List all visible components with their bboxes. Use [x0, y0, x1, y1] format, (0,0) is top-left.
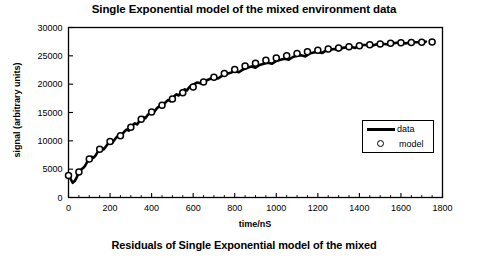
chart-legend: data model	[362, 120, 434, 153]
model-marker	[201, 79, 207, 85]
x-tick-label: 800	[215, 203, 255, 213]
axes-frame	[69, 28, 443, 198]
model-marker	[211, 74, 217, 80]
model-marker	[169, 96, 175, 102]
model-marker	[304, 49, 310, 55]
model-marker	[221, 70, 227, 76]
model-marker	[86, 156, 92, 162]
x-tick-label: 1200	[298, 203, 338, 213]
data-series-group	[66, 39, 436, 183]
axis-ticks	[69, 28, 443, 198]
model-marker	[107, 138, 113, 144]
model-marker	[377, 41, 383, 47]
model-marker	[97, 146, 103, 152]
x-tick-label: 0	[49, 203, 89, 213]
x-tick-label: 1400	[339, 203, 379, 213]
x-tick-label: 600	[173, 203, 213, 213]
model-marker	[128, 124, 134, 130]
x-tick-label: 1600	[381, 203, 421, 213]
y-tick-label: 20000	[17, 79, 63, 89]
model-marker	[253, 60, 259, 66]
model-marker	[273, 55, 279, 61]
model-marker	[263, 57, 269, 63]
model-marker	[315, 47, 321, 53]
model-marker	[284, 53, 290, 59]
model-marker	[367, 42, 373, 48]
legend-label-model: model	[399, 138, 424, 150]
model-marker	[190, 84, 196, 90]
legend-entry-data: data	[363, 121, 435, 137]
model-marker	[419, 39, 425, 45]
model-marker	[232, 66, 238, 72]
data-line	[69, 42, 426, 183]
model-marker	[294, 51, 300, 57]
model-marker	[180, 90, 186, 96]
model-marker	[117, 133, 123, 139]
open-circle-icon	[377, 140, 384, 147]
model-marker	[356, 43, 362, 49]
x-tick-label: 1800	[423, 203, 463, 213]
legend-entry-model: model	[363, 136, 435, 152]
legend-label-data: data	[397, 123, 415, 135]
model-marker	[429, 39, 435, 45]
model-marker	[398, 40, 404, 46]
y-tick-label: 25000	[17, 51, 63, 61]
plot-frame	[69, 28, 443, 198]
x-tick-label: 200	[90, 203, 130, 213]
x-tick-label: 1000	[256, 203, 296, 213]
model-marker	[336, 45, 342, 51]
x-tick-label: 400	[132, 203, 172, 213]
model-marker	[325, 46, 331, 52]
y-tick-label: 15000	[17, 108, 63, 118]
model-marker	[159, 102, 165, 108]
bottom-caption: Residuals of Single Exponential model of…	[0, 238, 488, 252]
model-marker	[242, 63, 248, 69]
model-marker	[66, 172, 72, 178]
model-marker	[149, 109, 155, 115]
model-marker	[138, 116, 144, 122]
model-marker	[388, 40, 394, 46]
y-tick-label: 0	[17, 193, 63, 203]
y-tick-label: 5000	[17, 164, 63, 174]
model-marker	[346, 44, 352, 50]
chart-figure: Single Exponential model of the mixed en…	[0, 0, 488, 258]
line-swatch-icon	[367, 128, 395, 131]
model-marker	[76, 169, 82, 175]
y-tick-label: 10000	[17, 136, 63, 146]
model-marker	[408, 40, 414, 46]
y-tick-label: 30000	[17, 23, 63, 33]
